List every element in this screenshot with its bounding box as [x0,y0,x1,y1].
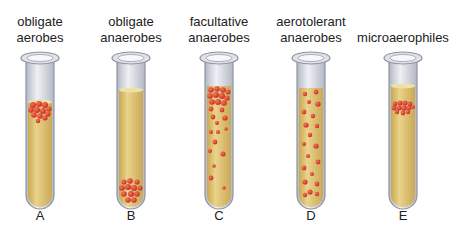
tube-b [112,52,150,209]
tube-letter-c: C [204,208,234,223]
tube-letter-a: A [25,208,55,223]
tube-c [200,52,238,209]
tubes-illustration [0,0,458,236]
tube-e [384,52,422,209]
tube-letter-e: E [388,208,418,223]
tube-a [21,52,59,209]
tube-letter-b: B [116,208,146,223]
tube-letter-d: D [296,208,326,223]
tube-d [292,52,330,209]
